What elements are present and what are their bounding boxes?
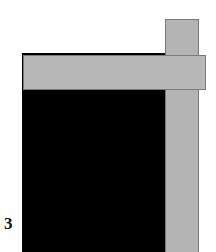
horizontal-bar (23, 55, 206, 90)
panel-label: 3 (4, 214, 13, 234)
vertical-bar (165, 19, 199, 252)
